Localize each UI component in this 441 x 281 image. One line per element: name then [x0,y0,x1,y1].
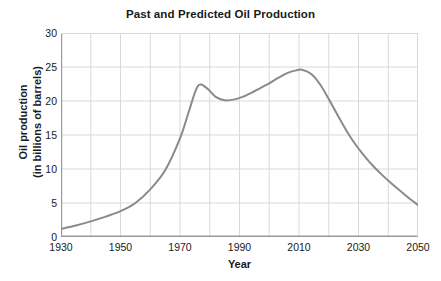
x-tick-label: 1930 [38,241,84,253]
plot-canvas [61,33,418,237]
x-tick-label: 1990 [217,241,263,253]
chart-figure: Past and Predicted Oil Production 30 25 … [0,0,441,281]
x-tick-label: 2010 [276,241,322,253]
plot-area [61,33,418,237]
x-tick-label: 1970 [157,241,203,253]
y-axis-title-line-2: (in billions of barrels) [31,20,45,224]
x-axis-tick-labels: 1930 1950 1970 1990 2010 2030 2050 [0,241,441,257]
x-tick-label: 2050 [395,241,441,253]
y-axis-title: Oil production (in billions of barrels) [17,20,47,224]
x-tick-label: 2030 [336,241,382,253]
x-axis-title: Year [61,258,418,270]
x-tick-label: 1950 [98,241,144,253]
y-axis-title-line-1: Oil production [17,20,31,224]
chart-title: Past and Predicted Oil Production [0,8,441,20]
